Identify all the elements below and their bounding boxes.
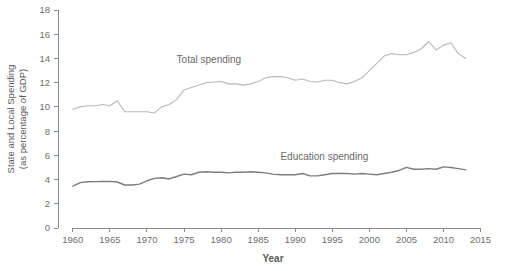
- x-tick-label: 1960: [62, 234, 83, 245]
- y-tick-label: 18: [39, 4, 50, 15]
- x-axis: 1960196519701975198019851990199520002005…: [62, 228, 491, 245]
- y-tick-label: 8: [45, 126, 50, 137]
- y-tick-label: 2: [45, 198, 50, 209]
- x-axis-title: Year: [262, 253, 283, 264]
- series-label-group: Total spendingEducation spending: [177, 54, 369, 162]
- x-tick-label: 1985: [248, 234, 269, 245]
- y-tick-label: 12: [39, 77, 50, 88]
- y-axis-title-line-1: State and Local Spending: [5, 65, 16, 174]
- series-line-total-spending: [73, 41, 466, 112]
- x-tick-label: 2010: [433, 234, 454, 245]
- x-tick-group: 1960196519701975198019851990199520002005…: [62, 228, 491, 245]
- x-tick-label: 2000: [359, 234, 380, 245]
- x-tick-label: 1965: [99, 234, 120, 245]
- y-tick-label: 0: [45, 222, 50, 233]
- series-group: [73, 41, 466, 186]
- y-tick-label: 10: [39, 101, 50, 112]
- x-tick-label: 2015: [470, 234, 491, 245]
- y-tick-label: 6: [45, 150, 50, 161]
- y-axis-title: State and Local Spending (as percentage …: [5, 65, 28, 174]
- x-tick-label: 1970: [136, 234, 157, 245]
- chart-figure: 024681012141618 196019651970197519801985…: [0, 0, 510, 271]
- x-tick-label: 1995: [322, 234, 343, 245]
- series-line-education-spending: [73, 167, 466, 186]
- y-axis-title-line-2: (as percentage of GDP): [17, 69, 28, 169]
- x-tick-label: 1980: [211, 234, 232, 245]
- y-tick-group: 024681012141618: [39, 4, 58, 233]
- x-tick-label: 1990: [285, 234, 306, 245]
- x-tick-label: 2005: [396, 234, 417, 245]
- y-axis: 024681012141618: [39, 4, 58, 233]
- series-label-total-spending: Total spending: [177, 54, 242, 65]
- y-tick-label: 14: [39, 53, 50, 64]
- x-tick-label: 1975: [173, 234, 194, 245]
- y-tick-label: 16: [39, 29, 50, 40]
- y-tick-label: 4: [45, 174, 50, 185]
- series-label-education-spending: Education spending: [280, 151, 368, 162]
- line-chart: 024681012141618 196019651970197519801985…: [0, 0, 510, 271]
